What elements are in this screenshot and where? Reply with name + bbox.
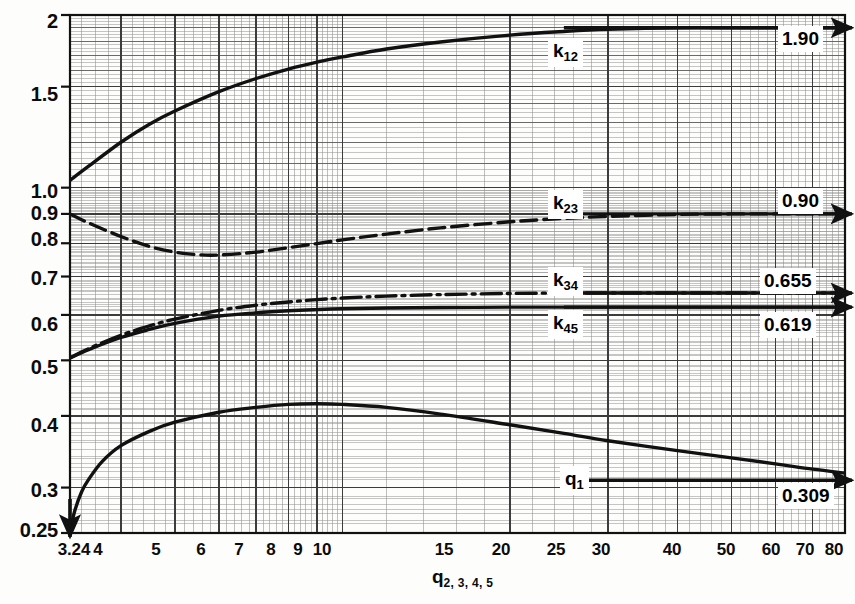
asymptote-value-k34: 0.655 <box>760 268 816 294</box>
curve-label-sub: 34 <box>564 278 578 293</box>
ytick-label: 2 <box>10 10 58 33</box>
xtick-label: 50 <box>704 540 748 560</box>
curve-label-main: q <box>565 468 577 489</box>
x-axis-title: q2, 3, 4, 5 <box>432 566 493 590</box>
ytick-label: 0.8 <box>0 228 58 251</box>
ytick-label: 0.5 <box>0 356 58 379</box>
curve-label-k23: k23 <box>548 190 583 219</box>
ytick-label: 0.25 <box>0 519 58 542</box>
ytick-label: 1.0 <box>0 180 58 203</box>
log-log-chart-figure: 2 1.5 1.0 0.9 0.8 0.7 0.6 0.5 0.4 0.3 0.… <box>0 0 855 604</box>
curve-label-main: k <box>553 269 564 290</box>
x-axis-title-sub: 2, 3, 4, 5 <box>444 576 494 590</box>
ytick-label: 0.3 <box>0 479 58 502</box>
asymptote-value-k45: 0.619 <box>760 312 816 338</box>
ytick-label: 0.9 <box>0 202 58 225</box>
xtick-label: 30 <box>579 540 623 560</box>
xtick-label: 25 <box>534 540 578 560</box>
curve-label-main: k <box>553 40 564 61</box>
curve-label-sub: 45 <box>564 321 578 336</box>
asymptote-value-k23: 0.90 <box>778 188 823 214</box>
curve-label-main: k <box>553 192 564 213</box>
asymptote-value-k12: 1.90 <box>778 26 823 52</box>
xtick-label: 15 <box>422 540 466 560</box>
xtick-label: 20 <box>479 540 523 560</box>
xtick-label: 40 <box>650 540 694 560</box>
curve-label-k34: k34 <box>548 267 583 296</box>
ytick-label: 1.5 <box>0 83 58 106</box>
xtick-label: 80 <box>812 540 855 560</box>
curve-label-k12: k12 <box>548 38 583 67</box>
curve-label-sub: 23 <box>564 201 578 216</box>
xtick-label: 5 <box>134 540 178 560</box>
curve-label-sub: 1 <box>577 477 584 492</box>
xtick-label: 4 <box>76 540 120 560</box>
curve-label-q1: q1 <box>560 466 589 495</box>
ytick-label: 0.7 <box>0 267 58 290</box>
ytick-label: 0.4 <box>0 414 58 437</box>
ytick-label: 0.6 <box>0 313 58 336</box>
x-axis-title-main: q <box>432 566 444 587</box>
curve-label-sub: 12 <box>564 49 578 64</box>
curve-label-main: k <box>553 312 564 333</box>
curve-label-k45: k45 <box>548 310 583 339</box>
xtick-label: 10 <box>300 540 344 560</box>
chart-canvas <box>0 0 855 604</box>
asymptote-value-q1: 0.309 <box>778 483 834 509</box>
